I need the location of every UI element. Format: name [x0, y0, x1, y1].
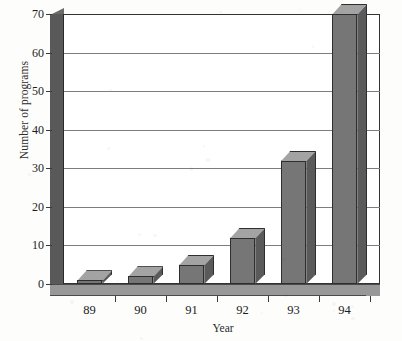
- scan-speck: [332, 302, 336, 306]
- scan-speck: [257, 264, 259, 266]
- scan-speck: [284, 294, 287, 297]
- y-axis-wall: [50, 14, 64, 284]
- bar-front-face: [179, 265, 205, 284]
- scan-speck: [219, 11, 222, 14]
- scan-speck: [190, 167, 194, 171]
- bar-side-face: [357, 4, 367, 284]
- bar-chart: Number of programs 010203040506070 89909…: [0, 0, 402, 341]
- bar-90: [128, 14, 154, 284]
- y-axis-tick-label: 0: [22, 278, 44, 290]
- bar-front-face: [128, 276, 154, 284]
- bar-89: [77, 14, 103, 284]
- y-axis-tick-label: 30: [22, 162, 44, 174]
- x-axis-title: Year: [0, 322, 402, 334]
- y-axis-tick-label: 70: [22, 8, 44, 20]
- y-axis-tick-label: 40: [22, 124, 44, 136]
- x-axis-tick-mark: [370, 296, 371, 302]
- scan-speck: [140, 337, 143, 340]
- bar-front-face: [332, 14, 358, 284]
- scan-speck: [117, 280, 119, 282]
- y-axis-tick-label: 20: [22, 201, 44, 213]
- y-axis-tick-mark: [46, 14, 52, 15]
- y-axis-tick-labels: 010203040506070: [18, 0, 44, 341]
- y-axis-tick-mark: [46, 53, 52, 54]
- x-axis-tick-label: 92: [223, 303, 263, 318]
- scan-speck: [35, 161, 36, 162]
- x-axis-tick-mark: [268, 296, 269, 302]
- bar-side-face: [306, 151, 316, 284]
- scan-speck: [293, 313, 295, 315]
- x-axis-tick-label: 90: [121, 303, 161, 318]
- bar-94: [332, 14, 358, 284]
- scan-speck: [206, 158, 209, 161]
- scan-speck: [283, 258, 285, 260]
- y-axis-tick-mark: [46, 168, 52, 169]
- y-axis-tick-mark: [46, 207, 52, 208]
- x-axis-tick-label: 89: [70, 303, 110, 318]
- y-axis-tick-mark: [46, 284, 52, 285]
- y-axis-tick-mark: [46, 91, 52, 92]
- x-axis-tick-label: 91: [172, 303, 212, 318]
- scan-speck: [153, 234, 157, 238]
- bar-91: [179, 14, 205, 284]
- y-axis-tick-label: 60: [22, 47, 44, 59]
- scan-speck: [203, 145, 205, 147]
- x-axis-title-text: Year: [212, 322, 233, 334]
- x-axis-tick-mark: [166, 296, 167, 302]
- scan-speck: [70, 300, 74, 304]
- scan-speck: [109, 89, 111, 91]
- bar-93: [281, 14, 307, 284]
- bar-front-face: [230, 238, 256, 284]
- scan-speck: [261, 312, 263, 314]
- bar-92: [230, 14, 256, 284]
- y-axis-tick-mark: [46, 130, 52, 131]
- scan-speck: [364, 276, 366, 278]
- bar-front-face: [281, 161, 307, 284]
- x-axis-tick-mark: [115, 296, 116, 302]
- plot-area: [64, 14, 380, 284]
- x-axis-tick-label: 94: [325, 303, 365, 318]
- y-axis-tick-mark: [46, 245, 52, 246]
- y-axis-tick-label: 50: [22, 85, 44, 97]
- x-axis-tick-mark: [319, 296, 320, 302]
- y-axis-tick-label: 10: [22, 239, 44, 251]
- x-axis-tick-label: 93: [274, 303, 314, 318]
- scan-speck: [351, 317, 354, 320]
- scan-speck: [361, 208, 363, 210]
- scan-speck: [299, 9, 301, 11]
- x-axis-tick-mark: [217, 296, 218, 302]
